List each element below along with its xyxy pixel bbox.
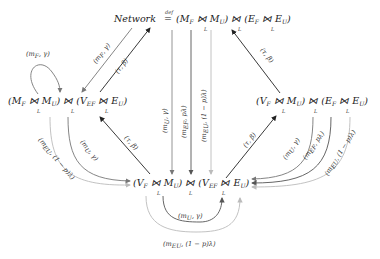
edge-top-bottom-meu: (mEU, (1 − p)λ) bbox=[200, 30, 211, 174]
svg-text:(VF ⋈ MU) ⋈ (EF ⋈ EU): (VF ⋈ MU) ⋈ (EF ⋈ EU) bbox=[256, 95, 368, 107]
svg-text:L: L bbox=[281, 108, 286, 114]
svg-text:(mU, γ): (mU, γ) bbox=[281, 136, 302, 161]
edge-left-selfloop: (mF, γ) bbox=[26, 50, 60, 94]
svg-text:L: L bbox=[203, 26, 208, 32]
svg-text:L: L bbox=[313, 108, 318, 114]
edge-right-top-tau: (τ, β) bbox=[232, 30, 280, 93]
svg-text:(mF, γ): (mF, γ) bbox=[91, 41, 113, 65]
edge-left-bottom-mu: (mU, γ) bbox=[68, 117, 130, 181]
edge-bottom-left-tau: (τ, β) bbox=[100, 117, 150, 174]
svg-text:(MF ⋈ MU) ⋈ (VEF ⋈ EU): (MF ⋈ MU) ⋈ (VEF ⋈ EU) bbox=[8, 95, 127, 107]
edge-bottom-selfloop-mu: (mU, γ) bbox=[163, 196, 222, 222]
svg-text:(mEU, (1 − p)λ): (mEU, (1 − p)λ) bbox=[200, 89, 209, 142]
svg-text:(MF ⋈ MU) ⋈ (EF ⋈ EU): (MF ⋈ MU) ⋈ (EF ⋈ EU) bbox=[176, 13, 291, 25]
edge-bottom-right-tau: (τ, β) bbox=[226, 116, 276, 178]
edge-top-bottom-mu: (mU, γ) bbox=[161, 30, 172, 174]
node-right: (VF ⋈ MU) ⋈ (EF ⋈ EU) L L L bbox=[256, 95, 368, 114]
svg-text:L: L bbox=[237, 26, 242, 32]
svg-text:Network: Network bbox=[113, 13, 156, 24]
svg-text:(mU, γ): (mU, γ) bbox=[78, 138, 100, 163]
svg-text:L: L bbox=[188, 190, 193, 196]
svg-text:(mEU, (1 − p)λ): (mEU, (1 − p)λ) bbox=[323, 128, 358, 177]
node-left: (MF ⋈ MU) ⋈ (VEF ⋈ EU) L L L bbox=[8, 95, 127, 114]
svg-text:(mU, γ): (mU, γ) bbox=[178, 212, 203, 221]
svg-text:L: L bbox=[156, 190, 161, 196]
svg-text:(mEF, pλ): (mEF, pλ) bbox=[180, 105, 189, 138]
svg-text:L: L bbox=[221, 190, 226, 196]
svg-text:(τ, β): (τ, β) bbox=[241, 131, 258, 149]
svg-text:L: L bbox=[270, 26, 275, 32]
edge-left-bottom-meu: (mEU, (1 − p)λ) bbox=[36, 117, 130, 185]
svg-text:(τ, β): (τ, β) bbox=[123, 134, 140, 152]
edge-right-bottom-mu: (mU, γ) bbox=[252, 117, 313, 179]
svg-text:L: L bbox=[70, 108, 75, 114]
svg-text:=: = bbox=[164, 13, 172, 24]
svg-text:L: L bbox=[345, 108, 350, 114]
ctmc-diagram: Network def = (MF ⋈ MU) ⋈ (EF ⋈ EU) L L … bbox=[0, 0, 380, 259]
svg-text:(mEU, (1 − p)λ): (mEU, (1 − p)λ) bbox=[163, 240, 216, 249]
edge-top-bottom-mef: (mEF, pλ) bbox=[180, 30, 191, 174]
svg-text:(τ, β): (τ, β) bbox=[113, 57, 130, 75]
svg-text:(mU, γ): (mU, γ) bbox=[161, 108, 170, 133]
svg-text:(mF, γ): (mF, γ) bbox=[26, 50, 50, 59]
svg-text:L: L bbox=[36, 108, 41, 114]
node-network: Network def = (MF ⋈ MU) ⋈ (EF ⋈ EU) L L … bbox=[113, 9, 291, 32]
svg-text:(τ, β): (τ, β) bbox=[258, 46, 275, 64]
node-bottom: (VF ⋈ MU) ⋈ (VEF ⋈ EU) L L L bbox=[133, 177, 250, 196]
svg-text:L: L bbox=[104, 108, 109, 114]
svg-text:(VF ⋈ MU) ⋈ (VEF ⋈ EU): (VF ⋈ MU) ⋈ (VEF ⋈ EU) bbox=[133, 177, 250, 189]
